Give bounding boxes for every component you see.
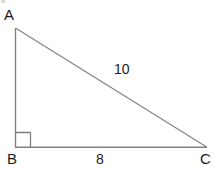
vertex-label-c: C xyxy=(200,151,211,166)
right-triangle-figure: A B C 10 8 xyxy=(0,0,214,171)
vertex-label-b: B xyxy=(7,151,17,166)
right-angle-square-icon xyxy=(15,133,31,148)
vertex-label-a: A xyxy=(4,7,14,22)
side-ac-hypotenuse xyxy=(16,28,208,147)
triangle-drawing xyxy=(0,0,214,171)
base-length-label: 8 xyxy=(96,152,104,167)
hypotenuse-length-label: 10 xyxy=(114,62,130,77)
